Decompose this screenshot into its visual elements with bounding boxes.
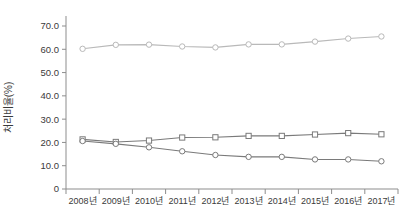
y-tick-label: 40.0 [41,90,60,101]
x-tick-label: 2016년 [334,196,362,206]
data-point-marker [379,159,384,164]
data-point-marker [246,133,251,138]
data-point-marker [246,154,251,159]
x-axis: 2008년2009년2010년2011년2012년2013년2014년2015년… [66,189,398,206]
x-tick-label: 2014년 [268,196,296,206]
data-point-marker [279,133,284,138]
data-point-marker [146,145,151,150]
x-tick-label: 2015년 [301,196,329,206]
x-tick-label: 2008년 [69,196,97,206]
data-point-marker [146,138,151,143]
data-point-marker [213,135,218,140]
data-point-marker [113,42,118,47]
data-point-marker [246,42,251,47]
data-point-marker [312,132,317,137]
x-tick-label: 2009년 [102,196,130,206]
y-tick-label: 60.0 [41,44,60,55]
y-tick-label: 30.0 [41,114,60,125]
series-line [83,36,382,48]
x-tick-label: 2012년 [201,196,229,206]
data-point-marker [213,45,218,50]
series-line [83,133,382,142]
data-point-marker [180,149,185,154]
data-point-marker [346,36,351,41]
data-point-marker [80,46,85,51]
y-axis-title: 처리비율(%) [3,82,14,134]
data-point-marker [346,157,351,162]
data-point-marker [279,42,284,47]
series-1 [80,34,384,52]
y-axis: 010.020.030.040.050.060.070.0 [41,16,67,194]
data-point-marker [146,42,151,47]
x-tick-label: 2011년 [169,196,196,206]
data-point-marker [180,135,185,140]
data-point-marker [213,152,218,157]
data-point-marker [312,39,317,44]
data-point-marker [279,154,284,159]
series-2 [80,131,384,145]
line-chart: 010.020.030.040.050.060.070.0처리비율(%)2008… [0,0,408,217]
x-tick-label: 2017년 [367,196,395,206]
y-tick-label: 10.0 [41,160,60,171]
data-point-marker [312,157,317,162]
y-tick-label: 0 [54,183,59,194]
y-tick-label: 50.0 [41,67,60,78]
y-tick-label: 20.0 [41,137,60,148]
y-tick-label: 70.0 [41,20,60,31]
data-point-marker [80,138,85,143]
series-line [83,141,382,161]
series-3 [80,138,384,164]
data-point-marker [379,34,384,39]
x-tick-label: 2010년 [135,196,163,206]
chart-canvas: 010.020.030.040.050.060.070.0처리비율(%)2008… [0,0,408,217]
data-point-marker [113,141,118,146]
data-point-marker [379,132,384,137]
data-point-marker [346,131,351,136]
data-point-marker [180,44,185,49]
x-tick-label: 2013년 [235,196,263,206]
